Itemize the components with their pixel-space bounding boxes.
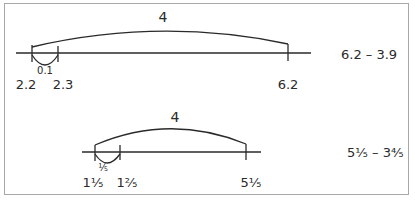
number-line-2 [82, 129, 261, 163]
jump-arc-large [32, 31, 288, 47]
tick-label: 6.2 [278, 78, 299, 91]
tick-label: 2.3 [53, 78, 74, 91]
tick-label: 2.2 [16, 78, 37, 91]
tick-label: 1⅕ [83, 176, 104, 189]
jump-label-large: 4 [171, 110, 180, 124]
tick-label: 5⅕ [241, 176, 262, 189]
jump-arc-large [95, 129, 246, 145]
jump-label-large: 4 [159, 10, 168, 24]
jump-label-small: 0.1 [37, 66, 53, 76]
number-line-diagrams [0, 0, 415, 200]
jump-label-small: ⅕ [98, 163, 108, 173]
subtraction-expression: 6.2 – 3.9 [341, 48, 397, 61]
jump-arc-small [32, 55, 58, 65]
tick-label: 1⅖ [117, 176, 138, 189]
subtraction-expression: 5⅕ – 3⅘ [347, 146, 404, 159]
number-line-1 [16, 31, 311, 65]
